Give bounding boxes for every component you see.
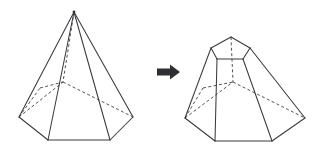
arrow-right-icon: [157, 65, 180, 80]
geometry-diagram: [0, 0, 319, 157]
pyramid-body-fill: [19, 12, 133, 140]
arrow-right-shape: [157, 65, 180, 80]
frustum-body-fill: [185, 37, 305, 141]
hexagonal-frustum: [185, 37, 305, 141]
pyramid-apex-point: [73, 11, 76, 14]
hexagonal-pyramid: [19, 11, 133, 140]
